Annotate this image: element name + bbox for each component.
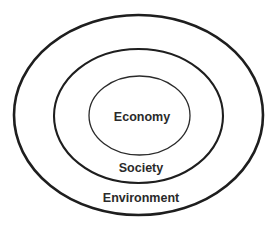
society-label: Society	[119, 161, 164, 175]
economy-layer: Economy	[89, 76, 190, 155]
economy-label: Economy	[114, 110, 170, 124]
nested-sustainability-diagram: Environment Society Economy	[0, 0, 275, 226]
environment-label: Environment	[103, 191, 180, 205]
